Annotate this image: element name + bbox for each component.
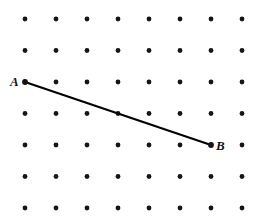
lattice-dot [240,48,245,53]
lattice-dot [54,17,59,22]
lattice-dot [85,80,90,85]
lattice-dot [85,206,90,211]
lattice-dot [116,143,121,148]
lattice-dot [240,206,245,211]
lattice-dot [178,143,183,148]
lattice-dot [209,48,214,53]
point-label-a: A [10,75,19,88]
lattice-dot [147,206,152,211]
lattice-dot [240,111,245,116]
lattice-dot [209,17,214,22]
endpoint-dot-b [208,142,214,148]
segment-ab-line [25,82,211,145]
lattice-dot [178,174,183,179]
lattice-dot [23,143,28,148]
lattice-dot [85,48,90,53]
lattice-dot [240,17,245,22]
lattice-dot [85,17,90,22]
lattice-dot [23,206,28,211]
segment-AB [25,82,211,145]
lattice-dot [209,80,214,85]
lattice-dot [116,80,121,85]
lattice-dot [116,206,121,211]
lattice-dot [147,80,152,85]
lattice-dot [85,143,90,148]
lattice-dot [209,206,214,211]
lattice-dot [240,143,245,148]
lattice-dot [23,17,28,22]
endpoint-dot-a [22,79,28,85]
lattice-dot [23,48,28,53]
lattice-dot [116,174,121,179]
lattice-dot [178,206,183,211]
lattice-dot [240,80,245,85]
lattice-dot [54,111,59,116]
lattice-dot [147,48,152,53]
lattice-dot [147,111,152,116]
lattice-canvas [0,0,262,219]
lattice-dot [116,17,121,22]
lattice-dot [54,143,59,148]
lattice-dot [178,17,183,22]
lattice-dot [23,111,28,116]
lattice-dot [54,174,59,179]
dot-lattice-figure: A B [0,0,262,219]
lattice-dot [23,174,28,179]
lattice-dot [54,48,59,53]
dot-grid [23,17,245,211]
lattice-dot [147,17,152,22]
lattice-dot [178,111,183,116]
lattice-dot [240,174,245,179]
lattice-dot [54,206,59,211]
lattice-dot [178,48,183,53]
lattice-dot [85,111,90,116]
lattice-dot [147,174,152,179]
lattice-dot [54,80,59,85]
lattice-dot [147,143,152,148]
point-label-b: B [216,139,225,152]
lattice-dot [116,48,121,53]
lattice-dot [209,111,214,116]
lattice-dot [209,174,214,179]
lattice-dot [178,80,183,85]
lattice-dot [85,174,90,179]
